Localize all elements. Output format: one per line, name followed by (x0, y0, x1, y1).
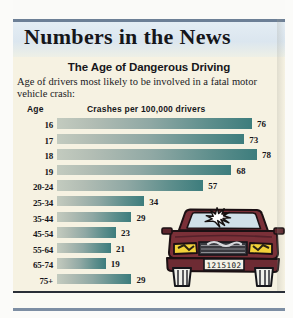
bar-category-label: 17 (13, 136, 53, 146)
bar-track (57, 180, 275, 191)
bar-row: 1968 (13, 164, 285, 180)
bar-category-label: 35-44 (13, 214, 53, 224)
bar-category-label: 75+ (13, 276, 53, 286)
bar-category-label: 25-34 (13, 198, 53, 208)
bar-fill (57, 118, 252, 129)
bar-value-label: 19 (111, 259, 120, 269)
bar-category-label: 45-54 (13, 229, 53, 239)
paper-right-margin (285, 0, 293, 318)
bar-track (57, 134, 275, 145)
bar-fill (57, 212, 131, 223)
bar-track (57, 149, 275, 160)
bar-category-label: 19 (13, 167, 53, 177)
paper-top-margin (0, 0, 293, 19)
footer-band: DATA: National Safety Council (13, 293, 285, 308)
chart-description: Age of drivers most likely to be involve… (17, 76, 275, 99)
chart-title: The Age of Dangerous Driving (13, 61, 285, 73)
bar-row: 1676 (13, 117, 285, 133)
masthead-title: Numbers in the News (24, 24, 231, 50)
bar-row: 20-2457 (13, 179, 285, 195)
bar-value-label: 78 (262, 150, 271, 160)
bar-value-label: 29 (136, 275, 145, 285)
bar-value-label: 57 (208, 181, 217, 191)
column-header-crashes: Crashes per 100,000 drivers (87, 104, 205, 114)
bar-value-label: 73 (249, 135, 258, 145)
paper-bottom-margin (0, 311, 293, 318)
bar-fill (57, 134, 244, 145)
bar-fill (57, 258, 106, 269)
bar-value-label: 29 (136, 213, 145, 223)
bar-category-label: 18 (13, 151, 53, 161)
masthead-band: Numbers in the News (13, 22, 285, 57)
bar-fill (57, 165, 231, 176)
bar-fill (57, 149, 257, 160)
bar-fill (57, 243, 111, 254)
bar-row: 1878 (13, 148, 285, 164)
bar-category-label: 65-74 (13, 260, 53, 270)
bar-track (57, 118, 275, 129)
bar-category-label: 16 (13, 120, 53, 130)
column-header-age: Age (27, 104, 44, 114)
bar-value-label: 34 (149, 197, 158, 207)
bar-category-label: 55-64 (13, 245, 53, 255)
infographic-clipping: Numbers in the News The Age of Dangerous… (0, 0, 293, 318)
bar-fill (57, 196, 144, 207)
bar-value-label: 21 (116, 244, 125, 254)
bar-category-label: 20-24 (13, 182, 53, 192)
bar-value-label: 76 (257, 119, 266, 129)
bar-row: 1773 (13, 133, 285, 149)
svg-text:1215102: 1215102 (207, 261, 242, 270)
crashed-car-illustration: 1215102 (161, 200, 285, 288)
bar-value-label: 68 (236, 166, 245, 176)
bar-value-label: 23 (121, 228, 130, 238)
bar-fill (57, 227, 116, 238)
bar-fill (57, 274, 131, 285)
chart-panel: The Age of Dangerous Driving Age of driv… (13, 57, 285, 291)
paper-left-margin (0, 0, 13, 318)
bar-fill (57, 180, 203, 191)
